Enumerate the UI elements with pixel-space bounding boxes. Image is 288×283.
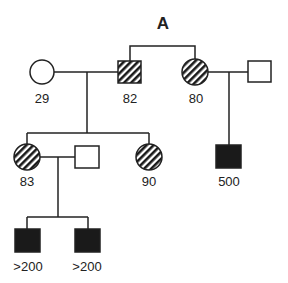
individual-I-2: 82 — [118, 61, 141, 106]
individual-II-2 — [75, 146, 99, 168]
individual-label: 500 — [218, 174, 240, 189]
male-unaffected-icon — [248, 61, 271, 82]
individual-I-3: 80 — [182, 59, 208, 106]
pedigree-title: A — [157, 14, 169, 33]
individual-label: >200 — [72, 259, 101, 274]
individual-label: 90 — [142, 174, 156, 189]
female-unaffected-icon — [30, 60, 54, 84]
pedigree-diagram: A 29 82 80 83 — [0, 0, 288, 283]
individual-II-4: 500 — [216, 145, 241, 189]
sibship-line-gen1 — [130, 46, 195, 61]
male-affected-icon — [75, 229, 100, 252]
individual-I-4 — [248, 61, 271, 82]
female-hatched-icon — [182, 59, 208, 85]
individual-III-2: >200 — [72, 229, 101, 274]
individual-III-1: >200 — [13, 229, 42, 274]
individual-II-1: 83 — [14, 144, 40, 189]
male-affected-icon — [15, 229, 40, 252]
individual-label: 29 — [35, 91, 49, 106]
female-hatched-icon — [14, 144, 40, 170]
individual-label: 82 — [123, 91, 137, 106]
female-hatched-icon — [136, 144, 162, 170]
individual-label: 80 — [189, 91, 203, 106]
male-affected-icon — [216, 145, 241, 168]
individual-label: 83 — [20, 174, 34, 189]
individual-I-1: 29 — [30, 60, 54, 106]
individual-label: >200 — [13, 259, 42, 274]
male-hatched-icon — [118, 61, 141, 83]
individual-II-3: 90 — [136, 144, 162, 189]
male-unaffected-icon — [75, 146, 99, 168]
